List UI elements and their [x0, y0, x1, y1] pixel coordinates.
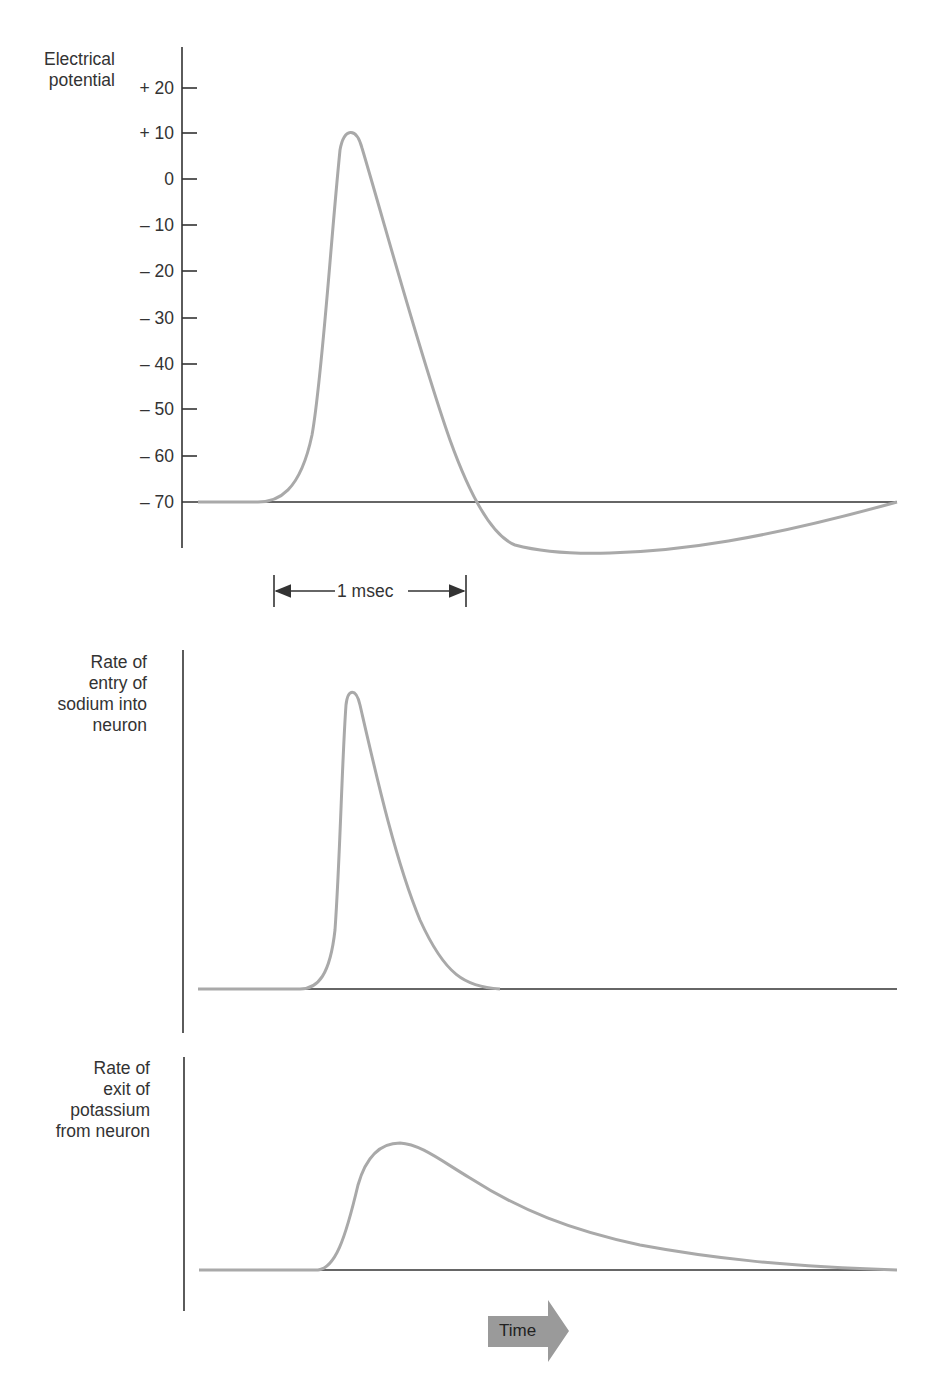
- tick-label-plus-20: + 20: [104, 78, 174, 98]
- potential-axis-label: Electrical potential: [10, 49, 115, 91]
- action-potential-curve: [198, 132, 897, 553]
- action-potential-figure: Electrical potential + 20 + 10 0 – 10 – …: [0, 0, 947, 1400]
- sodium-axis-label: Rate of entry of sodium into neuron: [10, 652, 147, 736]
- sodium-entry-curve: [198, 692, 500, 989]
- potential-y-axis: [182, 47, 197, 548]
- msec-scale-label: 1 msec: [335, 581, 395, 601]
- tick-label-minus-10: – 10: [104, 215, 174, 235]
- tick-label-minus-50: – 50: [104, 399, 174, 419]
- tick-label-plus-10: + 10: [104, 123, 174, 143]
- tick-label-minus-60: – 60: [104, 446, 174, 466]
- potassium-axis-label: Rate of exit of potassium from neuron: [10, 1058, 150, 1142]
- tick-label-minus-20: – 20: [104, 261, 174, 281]
- time-axis-label: Time: [499, 1321, 536, 1341]
- tick-label-minus-70: – 70: [104, 492, 174, 512]
- tick-label-minus-30: – 30: [104, 308, 174, 328]
- potassium-exit-curve: [199, 1143, 897, 1270]
- tick-label-0: 0: [104, 169, 174, 189]
- tick-label-minus-40: – 40: [104, 354, 174, 374]
